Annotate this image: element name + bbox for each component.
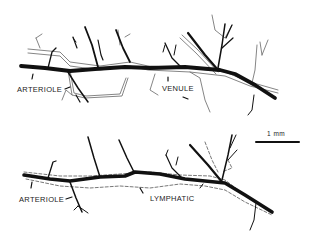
top-venule: [28, 15, 278, 112]
bottom-arteriole-label: ARTERIOLE: [19, 195, 64, 204]
bottom-arteriole: [24, 135, 272, 230]
top-arteriole-label: ARTERIOLE: [17, 85, 62, 94]
microvasculature-diagram: ARTERIOLE VENULE ARTERIOLE LYMPHATIC 1 m…: [0, 0, 315, 241]
top-arteriole: [21, 24, 275, 115]
vessel-drawing: [0, 0, 315, 241]
bottom-lymphatic-label: LYMPHATIC: [150, 194, 195, 203]
top-venule-label: VENULE: [162, 84, 194, 93]
scale-bar-label: 1 mm: [267, 130, 285, 137]
